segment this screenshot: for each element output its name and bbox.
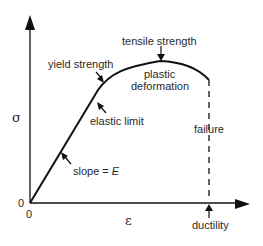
tensile-strength-arrowhead-icon <box>157 54 165 61</box>
deformation-label: deformation <box>131 80 189 92</box>
yield-strength-label: yield strength <box>48 58 113 70</box>
slope-arrow <box>65 157 71 164</box>
failure-label: failure <box>194 123 224 135</box>
tensile-strength-label: tensile strength <box>122 35 197 47</box>
yield-strength-arrowhead-icon <box>97 75 104 83</box>
x-axis-arrowhead-icon <box>235 199 250 209</box>
elastic-limit-label: elastic limit <box>90 115 144 127</box>
plastic-label: plastic <box>144 68 176 80</box>
ductility-arrowhead-icon <box>205 204 213 211</box>
x-axis-label: ε <box>125 213 132 228</box>
x-origin-label: 0 <box>26 208 32 220</box>
ductility-label: ductility <box>192 219 229 231</box>
slope-label: slope = E <box>73 165 120 177</box>
y-axis-arrowhead-icon <box>25 15 35 30</box>
stress-strain-diagram: σ ε 0 0 tensile strength yield strength … <box>0 0 263 246</box>
slope-variable: E <box>112 165 120 177</box>
y-origin-label: 0 <box>18 197 24 209</box>
slope-prefix: slope = <box>73 165 112 177</box>
y-axis-label: σ <box>12 110 21 125</box>
